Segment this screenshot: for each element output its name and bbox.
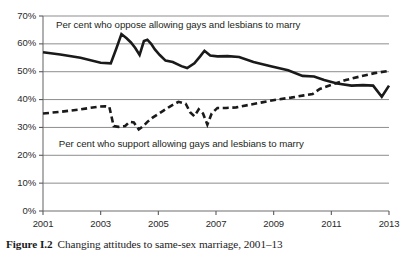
y-axis-label-40: 40% bbox=[2, 93, 36, 104]
line-chart-svg bbox=[0, 0, 397, 235]
y-axis-label-30: 30% bbox=[2, 121, 36, 132]
figure-caption-label: Figure I.2 bbox=[6, 238, 53, 250]
x-axis-label-2009: 2009 bbox=[254, 218, 294, 229]
oppose-label: Per cent who oppose allowing gays and le… bbox=[56, 19, 300, 30]
series-line-support bbox=[43, 71, 389, 130]
x-axis-label-2011: 2011 bbox=[311, 218, 351, 229]
x-axis-label-2007: 2007 bbox=[196, 218, 236, 229]
y-axis-label-60: 60% bbox=[2, 37, 36, 48]
x-axis-label-2001: 2001 bbox=[23, 218, 63, 229]
y-axis-label-20: 20% bbox=[2, 149, 36, 160]
x-axis-label-2003: 2003 bbox=[81, 218, 121, 229]
x-axis-ticks bbox=[43, 211, 389, 215]
figure-caption: Figure I.2Changing attitudes to same-sex… bbox=[6, 238, 396, 250]
y-axis-label-70: 70% bbox=[2, 10, 36, 21]
figure-caption-text: Changing attitudes to same-sex marriage,… bbox=[58, 238, 283, 250]
chart-plot-area: 0%10%20%30%40%50%60%70% 2001200320052007… bbox=[0, 0, 397, 235]
y-axis-label-0: 0% bbox=[2, 205, 36, 216]
axis-group bbox=[39, 16, 389, 211]
y-axis-label-10: 10% bbox=[2, 177, 36, 188]
y-axis-label-50: 50% bbox=[2, 65, 36, 76]
x-axis-label-2013: 2013 bbox=[369, 218, 404, 229]
gridlines-group bbox=[43, 16, 389, 183]
x-axis-label-2005: 2005 bbox=[138, 218, 178, 229]
support-label: Per cent who support allowing gays and l… bbox=[59, 138, 304, 149]
data-series-group bbox=[43, 34, 389, 129]
